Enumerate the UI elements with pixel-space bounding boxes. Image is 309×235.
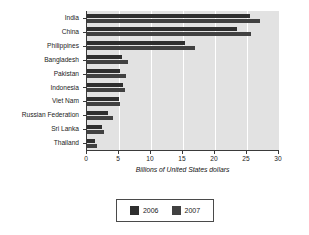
- x-tick-label: 10: [140, 155, 160, 162]
- bar-group: [87, 25, 279, 39]
- x-tick-mark: [278, 151, 279, 154]
- bar-2006: [87, 14, 250, 18]
- category-label: Sri Lanka: [51, 122, 79, 136]
- legend-label-2007: 2007: [185, 207, 201, 214]
- bar-2006: [87, 111, 108, 115]
- y-tick-mark: [83, 60, 86, 61]
- bar-2007: [87, 88, 125, 92]
- bar-group: [87, 94, 279, 108]
- bar-2006: [87, 55, 122, 59]
- bar-group: [87, 67, 279, 81]
- category-axis: IndiaChinaPhilippinesBangladeshPakistanI…: [0, 11, 83, 150]
- y-tick-mark: [83, 18, 86, 19]
- bar-group: [87, 39, 279, 53]
- x-axis-title: Billions of United States dollars: [86, 166, 279, 173]
- bar-2007: [87, 144, 97, 148]
- x-tick-mark: [118, 151, 119, 154]
- category-label: India: [65, 11, 79, 25]
- bar-group: [87, 108, 279, 122]
- bar-2006: [87, 69, 120, 73]
- y-tick-mark: [83, 87, 86, 88]
- bar-group: [87, 53, 279, 67]
- category-label: Thailand: [54, 136, 79, 150]
- bar-2007: [87, 60, 128, 64]
- chart-legend: 2006 2007: [116, 199, 214, 222]
- category-label: Philippines: [47, 39, 79, 53]
- category-label: Bangladesh: [44, 53, 79, 67]
- y-tick-mark: [83, 143, 86, 144]
- x-tick-label: 0: [76, 155, 96, 162]
- bar-group: [87, 11, 279, 25]
- bar-2007: [87, 102, 120, 106]
- x-tick-mark: [86, 151, 87, 154]
- bar-group: [87, 136, 279, 150]
- bar-2007: [87, 19, 260, 23]
- x-tick-label: 5: [108, 155, 128, 162]
- bar-2006: [87, 83, 123, 87]
- x-tick-label: 20: [204, 155, 224, 162]
- legend-swatch-icon-2007: [172, 206, 181, 215]
- category-label: Viet Nam: [52, 94, 79, 108]
- legend-swatch-icon-2006: [130, 206, 139, 215]
- bar-group: [87, 81, 279, 95]
- bar-2006: [87, 125, 102, 129]
- bar-2007: [87, 130, 104, 134]
- category-label: Russian Federation: [22, 108, 79, 122]
- x-tick-label: 15: [172, 155, 192, 162]
- x-tick-mark: [150, 151, 151, 154]
- bar-2007: [87, 46, 195, 50]
- x-tick-label: 25: [236, 155, 256, 162]
- x-tick-mark: [182, 151, 183, 154]
- plot-area: [86, 11, 279, 150]
- bar-2006: [87, 41, 185, 45]
- bar-2007: [87, 32, 251, 36]
- y-tick-mark: [83, 115, 86, 116]
- legend-label-2006: 2006: [143, 207, 159, 214]
- legend-entry-2006: 2006: [130, 206, 159, 215]
- category-label: China: [62, 25, 79, 39]
- bar-2007: [87, 116, 113, 120]
- gridline: [279, 11, 280, 150]
- bar-group: [87, 122, 279, 136]
- bar-2006: [87, 139, 95, 143]
- category-label: Indonesia: [50, 81, 79, 95]
- bar-chart: IndiaChinaPhilippinesBangladeshPakistanI…: [0, 0, 309, 235]
- y-tick-mark: [83, 32, 86, 33]
- category-label: Pakistan: [54, 67, 79, 81]
- y-tick-mark: [83, 129, 86, 130]
- x-tick-label: 30: [268, 155, 288, 162]
- x-tick-mark: [246, 151, 247, 154]
- y-tick-mark: [83, 101, 86, 102]
- x-tick-mark: [214, 151, 215, 154]
- legend-entry-2007: 2007: [172, 206, 201, 215]
- bar-2007: [87, 74, 126, 78]
- y-tick-mark: [83, 74, 86, 75]
- y-tick-mark: [83, 46, 86, 47]
- bar-2006: [87, 97, 119, 101]
- bar-2006: [87, 27, 237, 31]
